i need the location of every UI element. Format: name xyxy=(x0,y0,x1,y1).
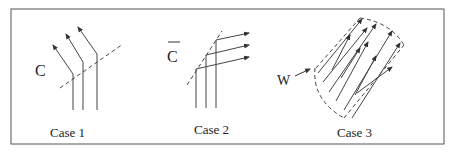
case1-label: C xyxy=(35,62,46,79)
case3-panel xyxy=(315,18,404,118)
case2-panel xyxy=(187,31,249,108)
case2-caption: Case 2 xyxy=(194,122,229,137)
case3-label-pointer xyxy=(295,69,310,76)
case2-label: C xyxy=(167,48,178,65)
case1-caption: Case 1 xyxy=(50,125,85,140)
case3-label: W xyxy=(277,73,291,88)
case1-panel xyxy=(53,27,123,110)
case3-caption: Case 3 xyxy=(337,125,372,140)
diagram: C Case 1 C Case 2 W Case 3 xyxy=(0,0,455,153)
